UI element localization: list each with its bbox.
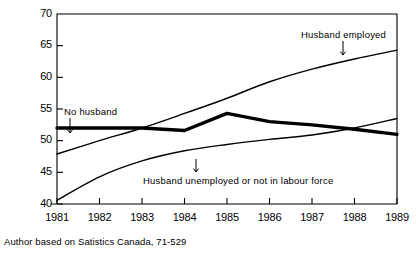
x-tick-label: 1988 <box>335 211 375 223</box>
x-tick-label: 1989 <box>377 211 416 223</box>
x-tick-label: 1985 <box>207 211 247 223</box>
y-tick-label: 50 <box>26 133 52 145</box>
y-tick-label: 40 <box>26 197 52 209</box>
annotation-husband-unemployed: Husband unemployed or not in labour forc… <box>143 175 333 186</box>
x-tick-label: 1984 <box>165 211 205 223</box>
x-tick-label: 1987 <box>292 211 332 223</box>
y-tick-label: 55 <box>26 102 52 114</box>
y-tick-label: 60 <box>26 70 52 82</box>
chart-figure: % in labour force by status of husband 4… <box>0 0 416 254</box>
x-tick-label: 1981 <box>37 211 77 223</box>
annotation-no-husband: No husband <box>64 106 117 117</box>
x-tick-label: 1982 <box>80 211 120 223</box>
x-tick-label: 1986 <box>250 211 290 223</box>
x-tick-label: 1983 <box>122 211 162 223</box>
y-tick-label: 45 <box>26 165 52 177</box>
y-tick-label: 70 <box>26 7 52 19</box>
annotation-husband-employed: Husband employed <box>301 29 386 40</box>
y-tick-label: 65 <box>26 38 52 50</box>
source-note: Author based on Satistics Canada, 71-529 <box>4 236 187 247</box>
